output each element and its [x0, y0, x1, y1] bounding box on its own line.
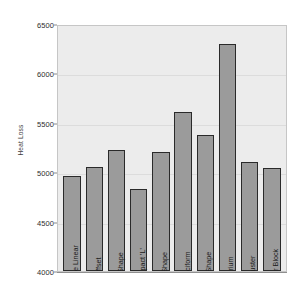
- y-axis-tick-5000: 5000: [37, 169, 54, 178]
- bar-slot: 'T' Shape: [150, 26, 172, 271]
- bar[interactable]: Poinr Block: [263, 168, 280, 271]
- bar-slot: Compact 'L': [128, 26, 150, 271]
- plot-area: Simple LinearOffset'L' ShapeCompact 'L''…: [57, 25, 287, 272]
- bar-slot: Cruciform: [172, 26, 194, 271]
- bar-slot: 'L' Shape: [105, 26, 127, 271]
- bar-slot: Offset: [83, 26, 105, 271]
- bar[interactable]: 'U' Shape: [197, 135, 214, 271]
- y-axis-tick-6000: 6000: [37, 70, 54, 79]
- bar[interactable]: 'T' Shape: [152, 152, 169, 271]
- bar[interactable]: Cruciform: [174, 112, 191, 271]
- y-axis-tick-labels: 650060005500500045004000: [28, 25, 54, 272]
- footer-strip: [0, 286, 298, 299]
- x-axis-baseline: [57, 272, 287, 273]
- y-axis-tick-4500: 4500: [37, 218, 54, 227]
- bar-slot: Atrium: [216, 26, 238, 271]
- bars-group: Simple LinearOffset'L' ShapeCompact 'L''…: [58, 26, 286, 271]
- bar-slot: Poinr Block: [261, 26, 283, 271]
- bar[interactable]: Offset: [86, 167, 103, 271]
- y-axis-tick-6500: 6500: [37, 21, 54, 30]
- bar[interactable]: Atrium: [219, 44, 236, 271]
- y-axis-tick-4000: 4000: [37, 268, 54, 277]
- bar-slot: Cluster: [239, 26, 261, 271]
- bar[interactable]: Simple Linear: [63, 176, 80, 271]
- y-axis-tick-5500: 5500: [37, 119, 54, 128]
- bar-slot: 'U' Shape: [194, 26, 216, 271]
- bar-slot: Simple Linear: [61, 26, 83, 271]
- bar[interactable]: Compact 'L': [130, 189, 147, 271]
- y-axis-title: Heat Loss: [17, 110, 24, 170]
- bar[interactable]: Cluster: [241, 162, 258, 271]
- bar-chart: Heat Loss 650060005500500045004000 Simpl…: [0, 0, 298, 299]
- bar[interactable]: 'L' Shape: [108, 150, 125, 271]
